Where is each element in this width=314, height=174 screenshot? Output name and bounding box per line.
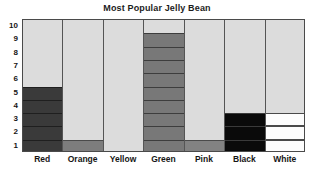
- chart-title: Most Popular Jelly Bean: [0, 3, 314, 13]
- bar-column-pink: [185, 20, 225, 152]
- bar-segment: [23, 126, 62, 139]
- jelly-bean-bar-chart: Most Popular Jelly Bean 10987654321 RedO…: [0, 0, 314, 174]
- y-tick-label-9: 9: [0, 32, 18, 45]
- bar-segment: [266, 140, 305, 152]
- bar-column-green: [144, 20, 184, 152]
- bar-segment: [266, 126, 305, 139]
- bar-segment: [225, 126, 264, 139]
- bar-column-black: [225, 20, 265, 152]
- bar-segment: [144, 140, 183, 152]
- bar-segment: [144, 113, 183, 126]
- y-tick-label-5: 5: [0, 86, 18, 99]
- bar-segment: [144, 126, 183, 139]
- x-axis-label-white: White: [265, 154, 305, 164]
- bar-segment: [185, 140, 224, 152]
- x-axis-label-yellow: Yellow: [103, 154, 143, 164]
- y-tick-label-8: 8: [0, 46, 18, 59]
- y-tick-label-4: 4: [0, 99, 18, 112]
- bar-segment: [23, 113, 62, 126]
- x-axis-label-green: Green: [143, 154, 183, 164]
- y-tick-label-3: 3: [0, 112, 18, 125]
- bar-column-red: [23, 20, 63, 152]
- bar-segment: [144, 100, 183, 113]
- y-tick-label-1: 1: [0, 139, 18, 152]
- plot-area: [22, 19, 305, 152]
- bar-column-white: [266, 20, 305, 152]
- y-tick-label-10: 10: [0, 19, 18, 32]
- bar-segment: [23, 140, 62, 152]
- x-axis: RedOrangeYellowGreenPinkBlackWhite: [22, 153, 305, 171]
- y-tick-label-7: 7: [0, 59, 18, 72]
- bar-segment: [23, 87, 62, 100]
- bar-segment: [144, 33, 183, 46]
- bar-segment: [225, 113, 264, 126]
- bar-segment: [23, 100, 62, 113]
- y-tick-label-2: 2: [0, 125, 18, 138]
- bar-segment: [144, 47, 183, 60]
- x-axis-label-black: Black: [224, 154, 264, 164]
- bar-segment: [63, 140, 102, 152]
- bar-segment: [144, 60, 183, 73]
- x-axis-label-red: Red: [22, 154, 62, 164]
- bar-segment: [144, 73, 183, 86]
- x-axis-label-orange: Orange: [62, 154, 102, 164]
- x-axis-label-pink: Pink: [184, 154, 224, 164]
- bar-segment: [266, 113, 305, 126]
- bar-column-orange: [63, 20, 103, 152]
- bar-column-yellow: [104, 20, 144, 152]
- y-axis: 10987654321: [0, 19, 20, 152]
- bar-segment: [225, 140, 264, 152]
- bar-segment: [144, 87, 183, 100]
- y-tick-label-6: 6: [0, 72, 18, 85]
